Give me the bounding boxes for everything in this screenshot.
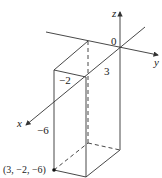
origin-label: 0 — [111, 35, 117, 47]
y-axis-label: y — [153, 56, 159, 68]
hidden-bottom-edge-left — [54, 143, 88, 170]
x-axis — [26, 27, 145, 125]
z-axis-label: z — [111, 7, 117, 19]
z-length-label: −6 — [37, 124, 49, 136]
bottom-edge-right — [86, 150, 120, 177]
box-diagram: z y x 0 3 −2 −6 (3, −2, −6) — [0, 0, 162, 178]
bottom-edge-front — [54, 170, 86, 177]
corner-point — [52, 168, 56, 172]
hidden-bottom-edge-back — [88, 143, 120, 150]
x-length-label: 3 — [104, 65, 110, 77]
corner-point-label: (3, −2, −6) — [3, 164, 46, 176]
x-axis-label: x — [16, 117, 22, 129]
y-axis — [46, 32, 158, 55]
y-length-label: −2 — [59, 74, 71, 86]
top-edge-left — [54, 41, 88, 70]
